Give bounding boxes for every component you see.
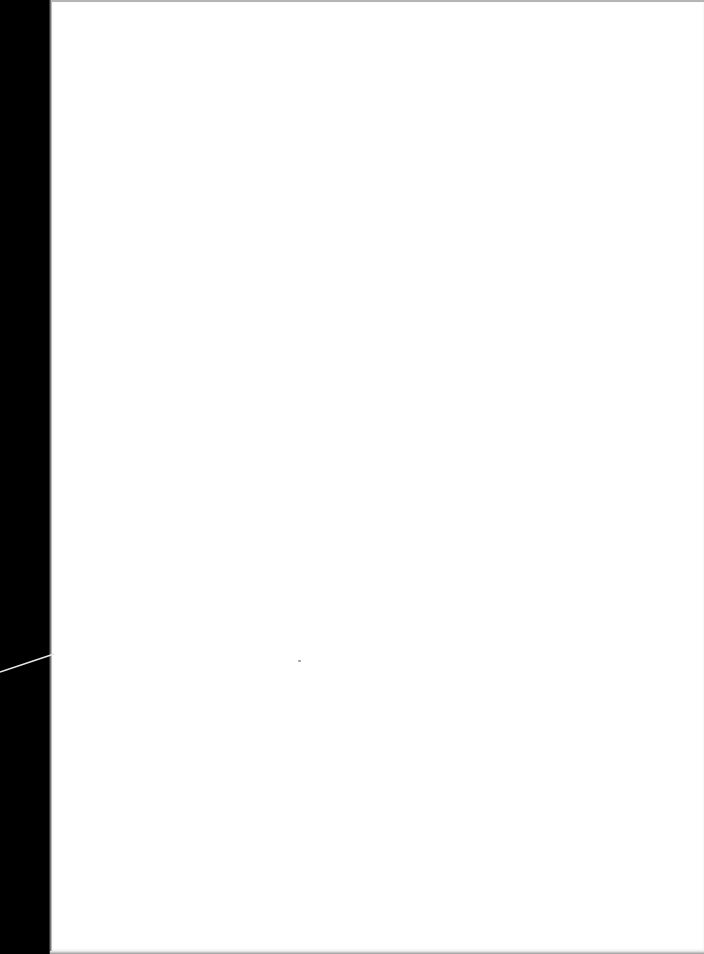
paper-left-edge (49, 0, 52, 954)
white-cable (0, 640, 56, 690)
dust-speck (298, 660, 301, 662)
blank-paper-sheet (50, 2, 704, 952)
